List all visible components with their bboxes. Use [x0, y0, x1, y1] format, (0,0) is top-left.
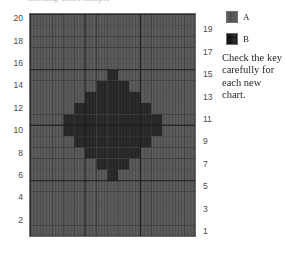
legend-row-b[interactable]: B: [226, 32, 285, 46]
left-tick-10: 10: [14, 126, 23, 135]
legend-swatch-a: [226, 11, 238, 23]
right-tick-3: 3: [203, 205, 208, 214]
legend-row-a[interactable]: A: [226, 10, 285, 24]
legend: A B: [226, 10, 285, 54]
left-tick-16: 16: [14, 59, 23, 68]
left-tick-20: 20: [14, 14, 23, 23]
left-tick-8: 8: [18, 149, 23, 158]
right-tick-11: 11: [203, 115, 212, 124]
legend-label-a: A: [243, 12, 250, 22]
right-tick-13: 13: [203, 93, 212, 102]
left-tick-12: 12: [14, 104, 23, 113]
right-tick-15: 15: [203, 70, 212, 79]
left-tick-14: 14: [14, 81, 23, 90]
right-tick-19: 19: [203, 25, 212, 34]
axis-right: 191715131197531: [199, 13, 223, 237]
right-tick-5: 5: [203, 182, 208, 191]
right-tick-1: 1: [203, 227, 208, 236]
axis-left: 2018161412108642: [0, 13, 27, 237]
knitting-chart: 2018161412108642 191715131197531 A B Che…: [0, 0, 285, 256]
right-tick-9: 9: [203, 137, 208, 146]
left-tick-6: 6: [18, 171, 23, 180]
chart-grid[interactable]: [29, 13, 196, 237]
chart-grid-canvas[interactable]: [30, 14, 195, 236]
legend-note: Check the key carefully for each new cha…: [222, 52, 285, 102]
right-tick-17: 17: [203, 48, 212, 57]
left-tick-18: 18: [14, 37, 23, 46]
legend-label-b: B: [243, 34, 249, 44]
left-tick-2: 2: [18, 216, 23, 225]
right-tick-7: 7: [203, 160, 208, 169]
legend-swatch-b: [226, 33, 238, 45]
left-tick-4: 4: [18, 193, 23, 202]
